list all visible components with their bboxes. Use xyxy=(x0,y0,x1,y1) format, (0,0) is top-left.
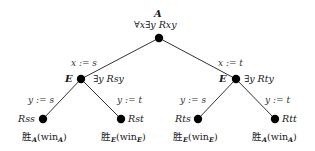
node-right xyxy=(232,75,240,83)
edge-label-leaf3: y := s xyxy=(180,95,206,106)
winner-kanji: 胜 xyxy=(101,131,111,142)
winner-sub: A xyxy=(262,136,267,144)
node-leaf-4 xyxy=(271,115,279,123)
leaf1-formula: Rss xyxy=(18,113,35,124)
win-sub: A xyxy=(288,136,293,144)
winner-sub: A xyxy=(32,136,37,144)
leaf2-formula: Rst xyxy=(128,113,144,124)
left-formula: ∃y Rsy xyxy=(93,73,124,84)
win-text: win xyxy=(120,131,137,142)
leaf1-payoff: 胜A(winA) xyxy=(22,131,67,146)
winner-sub: E xyxy=(183,136,188,144)
leaf3-formula: Rts xyxy=(175,113,191,124)
leaf2-payoff: 胜E(winE) xyxy=(101,131,146,146)
edge-left-leaf2 xyxy=(81,79,121,119)
node-leaf-2 xyxy=(117,115,125,123)
win-text: win xyxy=(271,131,288,142)
left-player-label: E xyxy=(65,73,73,84)
edge-label-x-s: x := s xyxy=(71,58,97,69)
node-root xyxy=(155,34,163,42)
winner-kanji: 胜 xyxy=(252,131,262,142)
winner-sub: E xyxy=(111,136,116,144)
win-sub: E xyxy=(209,136,214,144)
winner-kanji: 胜 xyxy=(173,131,183,142)
edge-label-leaf1: y := s xyxy=(28,95,54,106)
edge-label-leaf4: y := t xyxy=(265,95,290,106)
win-sub: A xyxy=(58,136,63,144)
winner-kanji: 胜 xyxy=(22,131,32,142)
leaf3-payoff: 胜E(winE) xyxy=(173,131,218,146)
win-sub: E xyxy=(137,136,142,144)
win-text: win xyxy=(192,131,209,142)
right-formula: ∃y Rty xyxy=(244,73,274,84)
node-left xyxy=(77,75,85,83)
edge-label-x-t: x := t xyxy=(218,58,243,69)
right-player-label: E xyxy=(219,73,227,84)
root-player-label: A xyxy=(154,8,162,19)
win-text: win xyxy=(41,131,58,142)
leaf4-payoff: 胜A(winA) xyxy=(252,131,297,146)
leaf4-formula: Rtt xyxy=(282,113,297,124)
node-leaf-3 xyxy=(194,115,202,123)
edge-label-leaf2: y := t xyxy=(117,95,142,106)
root-formula: ∀x∃y Rxy xyxy=(134,19,177,30)
node-leaf-1 xyxy=(39,115,47,123)
